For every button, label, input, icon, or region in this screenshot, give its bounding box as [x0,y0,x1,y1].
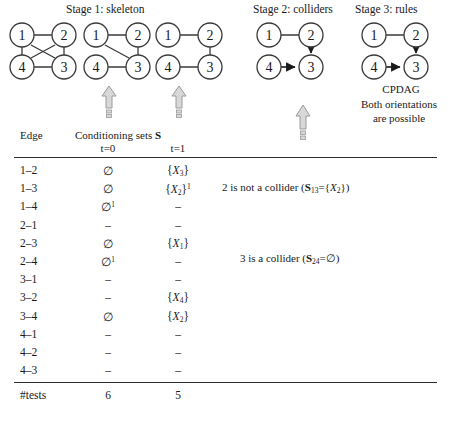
annotation-not-collider: 2 is not a collider (S13={X2}) [222,181,349,195]
annotation-collider: 3 is a collider (S24=∅) [240,252,339,266]
t1-var-sub: 4 [180,296,184,305]
table-row-t1: – [143,364,213,376]
footer-t1-value: 5 [143,389,213,401]
table-bottom-rule [14,382,437,383]
t1-var: X [173,164,180,176]
table-row-t0: ∅ [78,182,138,196]
t0-value: – [105,291,111,303]
t0-value: ∅ [101,201,111,213]
t1-dash: – [175,219,181,231]
table-row-t0: ∅1 [78,255,138,269]
t1-dash: – [175,273,181,285]
t1-var-sub: 2 [178,188,182,197]
annotation-not-collider-eq: ={ [318,181,329,193]
node-label-3: 3 [135,60,142,75]
table-row-t1: – [143,219,213,231]
table-row-edge: 4–3 [20,364,80,376]
stage-1-title: Stage 1: skeleton [66,3,145,15]
table-row-t0: – [78,328,138,340]
table-row-edge: 3–1 [20,273,80,285]
table-row-t0: ∅ [78,237,138,251]
table-subheader-t1: t=1 [143,142,213,154]
t0-value: – [105,328,111,340]
table-row-t0: – [78,364,138,376]
t1-dash: – [175,255,181,267]
node-label-1: 1 [93,28,100,43]
table-row-t1: – [143,200,213,212]
table-header-edge: Edge [20,129,43,141]
table-header-conditioning-symbol: S [155,129,161,141]
t0-value: ∅ [101,256,111,268]
table-row-edge: 3–4 [20,310,80,322]
node-label-4: 4 [19,60,26,75]
t1-dash: – [175,200,181,212]
node-label-2: 2 [135,28,142,43]
node-label-2: 2 [308,28,315,43]
graph-skeleton-complete: 1 2 4 3 [6,20,82,86]
node-label-4: 4 [266,60,273,75]
t1-dash: – [175,328,181,340]
t1-var: X [173,310,180,322]
table-top-rule [14,157,437,158]
node-label-1: 1 [165,28,172,43]
t1-var: X [173,237,180,249]
table-row-edge: 1–4 [20,200,80,212]
stage-2-title: Stage 2: colliders [253,3,333,15]
node-label-1: 1 [19,28,26,43]
table-header-conditioning-text: Conditioning sets [75,129,152,141]
table-row-t0: ∅ [78,164,138,178]
cpdag-caption: CPDAG [366,83,436,95]
table-row-t1: – [143,328,213,340]
up-arrow-icon-stage2 [294,104,312,144]
t0-superscript: 1 [111,255,115,264]
t0-value: – [105,364,111,376]
t1-var-sub: 2 [180,315,184,324]
t1-dash: – [175,346,181,358]
t1-var: X [173,291,180,303]
t1-var: X [171,183,178,195]
table-row-t0: – [78,219,138,231]
t0-value: ∅ [103,238,113,250]
node-label-4: 4 [165,60,172,75]
up-arrow-icon-t1 [170,85,188,122]
table-row-edge: 4–2 [20,346,80,358]
annotation-collider-s-sub: 24 [312,257,320,266]
t1-dash: – [175,364,181,376]
footer-t0-value: 6 [78,389,138,401]
graph-skeleton-step1: 1 2 4 3 [80,20,156,86]
node-label-1: 1 [371,28,378,43]
table-row-t0: ∅1 [78,200,138,214]
table-row-edge: 3–2 [20,291,80,303]
table-row-t1: {X4} [143,291,213,305]
graph-cpdag: 1 2 4 3 [358,20,440,88]
t0-value: – [105,273,111,285]
table-row-t1: – [143,346,213,358]
graph-colliders: 1 2 4 3 [253,20,335,88]
annotation-collider-eq: =∅) [320,252,340,264]
stage-3-title: Stage 3: rules [355,3,418,15]
annotation-not-collider-var: X [330,181,337,193]
up-arrow-icon-t0 [100,85,118,122]
table-row-t1: {X3} [143,164,213,178]
table-row-t1: {X2}1 [143,182,213,197]
node-label-1: 1 [266,28,273,43]
t0-value: – [105,219,111,231]
table-row-t1: – [143,255,213,267]
orientation-note-line2: are possible [348,112,450,124]
table-row-edge: 2–4 [20,255,80,267]
t0-value: ∅ [103,165,113,177]
table-row-t0: – [78,291,138,303]
node-label-3: 3 [413,60,420,75]
table-row-edge: 1–3 [20,182,80,194]
table-row-t0: ∅ [78,310,138,324]
t0-value: – [105,346,111,358]
table-row-t1: – [143,273,213,285]
table-subheader-t0: t=0 [78,142,138,154]
orientation-note-line1: Both orientations [348,98,450,110]
t1-var-sub: 1 [180,242,184,251]
table-row-t1: {X2} [143,310,213,324]
table-row-edge: 2–1 [20,219,80,231]
table-row-edge: 1–2 [20,164,80,176]
node-label-4: 4 [93,60,100,75]
table-header-conditioning: Conditioning sets S [75,129,161,141]
